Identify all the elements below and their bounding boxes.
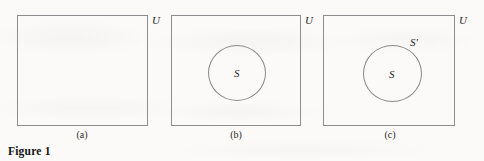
set-label-c: S xyxy=(389,69,395,80)
figure-1: U (a) S U (b) S S' U (c) Figure 1 xyxy=(0,0,484,161)
complement-label-c: S' xyxy=(410,37,418,48)
figure-caption: Figure 1 xyxy=(8,146,51,158)
universe-label-c: U xyxy=(459,15,467,26)
panel-c: S S' U (c) xyxy=(0,0,484,161)
subcaption-c: (c) xyxy=(370,130,410,140)
